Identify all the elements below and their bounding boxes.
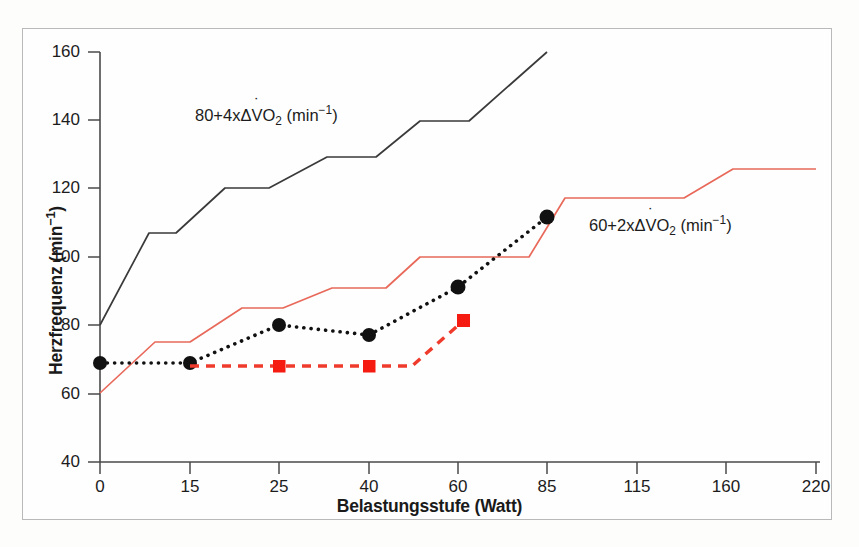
x-tick-85: 85	[512, 477, 582, 497]
data-point-marker	[183, 356, 197, 370]
y-axis-label-text: Herzfrequenz (min	[46, 226, 66, 375]
annotation-o: O	[656, 216, 669, 234]
series-black-reference-line	[100, 52, 547, 325]
annotation-superscript: −1	[319, 103, 333, 117]
y-axis-ticks	[88, 52, 100, 462]
y-tick-160: 160	[34, 42, 80, 62]
data-point-marker	[540, 210, 555, 225]
data-point-marker	[272, 318, 286, 332]
y-axis-label-exponent: −1	[44, 212, 58, 226]
data-point-marker	[362, 328, 376, 342]
annotation-subscript: 2	[275, 114, 282, 128]
x-tick-115: 115	[602, 477, 672, 497]
annotation-suffix-close: )	[332, 106, 338, 124]
annotation-suffix-open: (min	[282, 106, 319, 124]
y-tick-60: 60	[34, 384, 80, 404]
x-tick-220: 220	[781, 477, 851, 497]
chart-canvas	[0, 0, 859, 547]
x-tick-25: 25	[244, 477, 314, 497]
series-red-measured-line	[190, 321, 463, 366]
y-tick-120: 120	[34, 178, 80, 198]
x-tick-15: 15	[155, 477, 225, 497]
figure-container: 160 140 120 100 80 60 40 0 15 25 40 60 8…	[0, 0, 859, 547]
x-tick-0: 0	[65, 477, 135, 497]
data-point-marker	[457, 314, 470, 327]
series-black-measured-line	[100, 217, 547, 363]
x-tick-160: 160	[691, 477, 761, 497]
v-dot-letter: V	[645, 216, 656, 234]
x-axis-label: Belastungsstufe (Watt)	[0, 496, 859, 517]
annotation-suffix-close: )	[726, 216, 732, 234]
y-axis-label-close: )	[46, 206, 66, 212]
annotation-black-curve-label: 80+4xΔVO2 (min−1)	[195, 103, 338, 128]
annotation-prefix: 80+4xΔ	[195, 106, 251, 124]
v-dot-letter: V	[251, 106, 262, 124]
data-point-marker	[451, 280, 466, 295]
x-tick-60: 60	[423, 477, 493, 497]
x-tick-40: 40	[334, 477, 404, 497]
series-red-measured-markers	[273, 314, 470, 373]
annotation-red-curve-label: 60+2xΔVO2 (min−1)	[589, 213, 732, 238]
data-point-marker	[93, 356, 107, 370]
annotation-superscript: −1	[713, 213, 727, 227]
data-point-marker	[363, 360, 376, 373]
y-axis-label: Herzfrequenz (min−1)	[44, 206, 67, 375]
annotation-prefix: 60+2xΔ	[589, 216, 645, 234]
annotation-suffix-open: (min	[676, 216, 713, 234]
annotation-o: O	[262, 106, 275, 124]
x-axis-ticks	[100, 462, 816, 474]
data-point-marker	[273, 360, 286, 373]
annotation-subscript: 2	[669, 224, 676, 238]
y-tick-40: 40	[34, 452, 80, 472]
y-tick-140: 140	[34, 110, 80, 130]
